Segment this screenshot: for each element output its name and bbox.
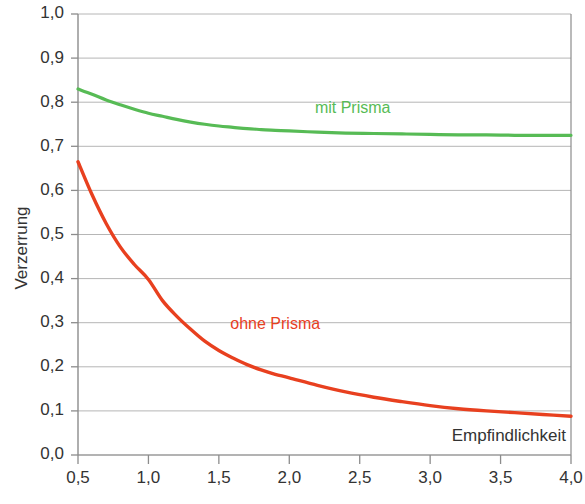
- y-tick-label: 0,5: [40, 224, 64, 243]
- y-tick-label: 0,6: [40, 180, 64, 199]
- x-tick-label: 3,0: [418, 468, 442, 487]
- y-tick-label: 0,0: [40, 444, 64, 463]
- x-tick-label: 4,0: [559, 468, 583, 487]
- y-tick-label: 0,9: [40, 48, 64, 67]
- y-axis-title: Verzerrung: [12, 206, 31, 289]
- x-tick-label: 2,0: [277, 468, 301, 487]
- y-tick-label: 0,8: [40, 92, 64, 111]
- x-tick-label: 0,5: [66, 468, 90, 487]
- y-tick-label: 0,7: [40, 136, 64, 155]
- x-tick-label: 1,0: [137, 468, 161, 487]
- x-tick-label: 1,5: [207, 468, 231, 487]
- verzerrung-empfindlichkeit-line-chart: 0,00,10,20,30,40,50,60,70,80,91,0 0,51,0…: [0, 0, 585, 504]
- y-tick-label: 1,0: [40, 3, 64, 22]
- series-label-mit-prisma: mit Prisma: [315, 99, 391, 116]
- x-axis-title: Empfindlichkeit: [452, 426, 567, 445]
- chart-container: 0,00,10,20,30,40,50,60,70,80,91,0 0,51,0…: [0, 0, 585, 504]
- y-tick-label: 0,3: [40, 312, 64, 331]
- x-tick-label: 2,5: [348, 468, 372, 487]
- y-tick-label: 0,4: [40, 268, 64, 287]
- series-label-ohne-prisma: ohne Prisma: [230, 315, 320, 332]
- x-tick-label: 3,5: [489, 468, 513, 487]
- y-tick-label: 0,2: [40, 356, 64, 375]
- y-tick-label: 0,1: [40, 400, 64, 419]
